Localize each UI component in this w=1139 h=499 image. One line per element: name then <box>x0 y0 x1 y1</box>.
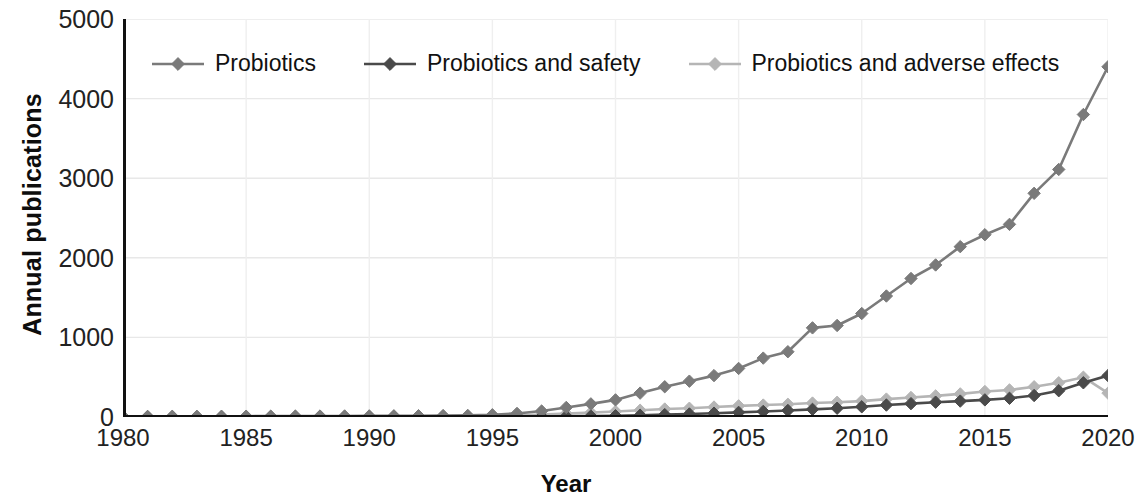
plot-area <box>123 19 1108 417</box>
legend-item-1: Probiotics and safety <box>362 52 641 75</box>
x-axis-title: Year <box>0 470 1132 498</box>
data-point-marker <box>683 375 695 387</box>
y-axis-tick-label: 1000 <box>26 325 114 350</box>
y-axis-tick-label: 5000 <box>26 7 114 32</box>
legend-label: Probiotics and adverse effects <box>752 52 1060 75</box>
legend-label: Probiotics <box>215 52 316 75</box>
legend-item-2: Probiotics and adverse effects <box>687 52 1060 75</box>
legend-marker-icon <box>687 54 743 74</box>
x-axis-tick-label: 2010 <box>802 424 922 452</box>
data-point-marker <box>609 394 621 406</box>
y-axis-tick-labels: 500040003000200010000 <box>18 0 114 440</box>
data-point-marker <box>954 395 966 407</box>
data-point-marker <box>979 394 991 406</box>
legend-marker-icon <box>362 54 418 74</box>
data-point-marker <box>659 381 671 393</box>
data-point-marker <box>1102 369 1108 381</box>
x-axis-tick-label: 1995 <box>432 424 552 452</box>
x-axis-tick-label: 1980 <box>63 424 183 452</box>
y-axis-tick-label: 4000 <box>26 87 114 112</box>
y-axis-tick-label: 2000 <box>26 246 114 271</box>
x-axis-tick-label: 1990 <box>309 424 429 452</box>
data-point-marker <box>1053 385 1065 397</box>
data-point-marker <box>634 387 646 399</box>
x-axis-tick-label: 2000 <box>556 424 676 452</box>
legend-label: Probiotics and safety <box>427 52 641 75</box>
legend-item-0: Probiotics <box>150 52 316 75</box>
plot-svg <box>123 19 1108 417</box>
x-axis-tick-label: 2020 <box>1048 424 1139 452</box>
data-point-marker <box>831 319 843 331</box>
data-point-marker <box>1028 389 1040 401</box>
x-axis-tick-label: 2005 <box>679 424 799 452</box>
data-point-marker <box>585 398 597 410</box>
data-point-marker <box>1003 392 1015 404</box>
data-point-marker <box>1077 108 1089 120</box>
chart-legend: ProbioticsProbiotics and safetyProbiotic… <box>150 52 1059 75</box>
x-axis-tick-label: 1985 <box>186 424 306 452</box>
data-point-marker <box>979 229 991 241</box>
data-point-marker <box>708 369 720 381</box>
data-point-marker <box>732 362 744 374</box>
y-axis-tick-label: 3000 <box>26 166 114 191</box>
legend-marker-icon <box>150 54 206 74</box>
x-axis-tick-label: 2015 <box>925 424 1045 452</box>
data-point-marker <box>757 352 769 364</box>
